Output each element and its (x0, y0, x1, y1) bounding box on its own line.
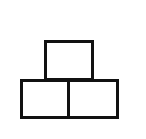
box-bottom-left (20, 79, 70, 119)
box-bottom-right (67, 79, 119, 119)
box-top (44, 40, 94, 81)
